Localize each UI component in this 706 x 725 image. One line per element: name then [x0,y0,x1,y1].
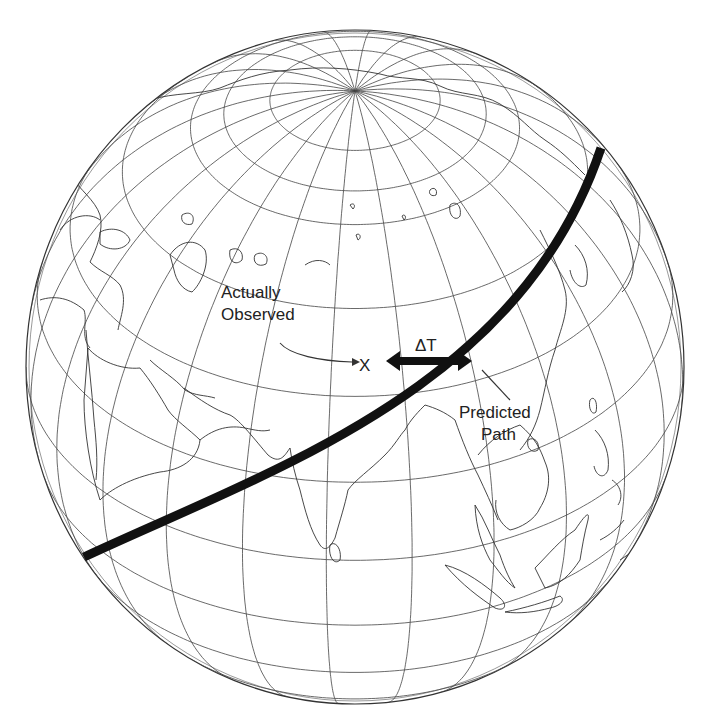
globe-diagram: Actually Observed X ΔT Predicted Path [0,0,706,725]
delta-t-arrow-shaft [396,357,462,365]
predicted-path-label-line1: Predicted [459,403,531,422]
globe-svg: Actually Observed X ΔT Predicted Path [0,0,706,725]
actually-observed-label-line2: Observed [221,305,295,324]
delta-t-label: ΔT [415,336,437,355]
predicted-path-label-line2: Path [481,425,516,444]
actually-observed-label-line1: Actually [221,283,281,302]
observed-x-marker: X [359,356,370,375]
